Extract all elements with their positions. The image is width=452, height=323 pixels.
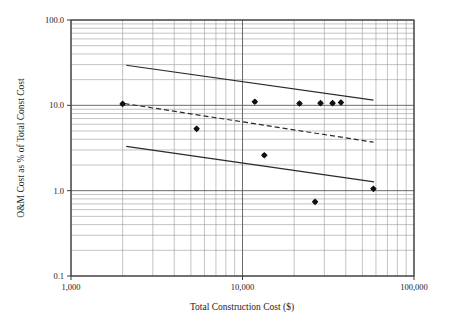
scatter-chart: 1,00010,000100,000100.010.01.00.1 Total … <box>0 0 452 323</box>
y-tick-label: 0.1 <box>53 271 64 281</box>
y-axis-title: O&M Cost as % of Total Const Cost <box>16 78 26 218</box>
chart-figure: 1,00010,000100,000100.010.01.00.1 Total … <box>0 0 452 323</box>
x-axis-title: Total Construction Cost ($) <box>190 302 294 313</box>
x-tick-label: 1,000 <box>61 282 80 292</box>
y-tick-label: 100.0 <box>45 15 64 25</box>
y-tick-label: 10.0 <box>49 100 64 110</box>
x-tick-label: 10,000 <box>231 282 254 292</box>
x-tick-label: 100,000 <box>400 282 428 292</box>
y-tick-label: 1.0 <box>53 186 64 196</box>
